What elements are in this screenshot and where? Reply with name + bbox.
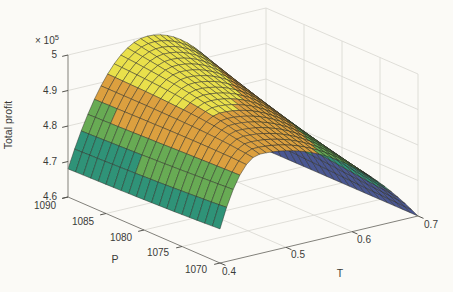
x-tick-label: 0.6 xyxy=(357,234,371,245)
x-tick-label: 0.5 xyxy=(291,249,305,260)
surface-plot-canvas: 4.6 4.7 4.8 4.9 5 × 105 1090 1085 1080 1… xyxy=(0,0,453,292)
figure-3d-surface-plot: 4.6 4.7 4.8 4.9 5 × 105 1090 1085 1080 1… xyxy=(0,0,453,292)
z-axis-label: Total profit xyxy=(2,101,14,150)
y-tick-label: 1075 xyxy=(147,247,170,258)
z-tick-label: 5 xyxy=(51,49,57,60)
x-tick-label: 0.4 xyxy=(222,266,236,277)
y-tick-label: 1070 xyxy=(185,264,208,275)
x-axis-label: T xyxy=(337,267,344,279)
y-tick-label: 1085 xyxy=(72,216,95,227)
y-axis-label: P xyxy=(111,253,118,265)
x-tick-label: 0.7 xyxy=(424,219,438,230)
z-tick-label: 4.7 xyxy=(43,156,57,167)
z-tick-label: 4.9 xyxy=(43,85,57,96)
y-tick-label: 1090 xyxy=(34,200,57,211)
z-tick-label: 4.8 xyxy=(43,120,57,131)
y-tick-label: 1080 xyxy=(110,232,133,243)
